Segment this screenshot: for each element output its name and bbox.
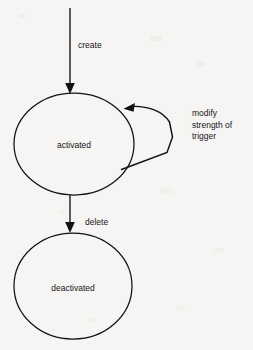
modify-strength-line-1: modify xyxy=(192,108,218,118)
create-arrow-head xyxy=(65,83,75,94)
state-deactivated[interactable]: deactivated xyxy=(14,233,132,339)
transition-delete[interactable]: delete xyxy=(65,195,108,233)
modify-strength-line-2: strength of xyxy=(192,120,233,130)
self-loop-path xyxy=(122,106,173,169)
self-loop-arrow-head xyxy=(124,103,136,112)
transition-modify-strength[interactable]: modify strength of trigger xyxy=(122,103,235,170)
delete-arrow-head xyxy=(65,222,75,233)
activated-label: activated xyxy=(57,140,91,150)
create-label: create xyxy=(78,40,102,50)
transition-create[interactable]: create xyxy=(65,8,102,94)
state-activated[interactable]: activated xyxy=(14,93,134,195)
diagram-canvas: create activated modify strength of trig… xyxy=(0,0,253,350)
delete-label: delete xyxy=(85,217,108,227)
modify-strength-line-3: trigger xyxy=(192,131,216,141)
modify-strength-label: modify strength of trigger xyxy=(192,108,235,141)
deactivated-label: deactivated xyxy=(51,283,95,293)
state-diagram: create activated modify strength of trig… xyxy=(0,0,253,350)
